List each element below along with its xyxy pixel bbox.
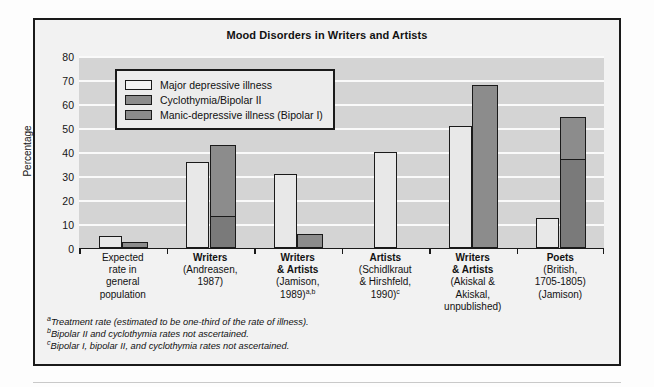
category-label-line: Expected [79,252,167,264]
category-label-line: general [79,276,167,288]
category-label-line: Akiskal, [429,289,517,301]
bar-segment-bipolar-i [560,160,586,248]
bar-stacked-bipolar [474,85,497,248]
y-axis-tick-label: 60 [62,99,74,111]
category-label-line: unpublished) [429,301,517,313]
category-label-line: 1989)a,b [254,289,342,301]
footnote-marker: c [396,287,400,294]
x-axis-category-label: Poets(British,1705-1805)(Jamison) [517,252,605,301]
bar-group [429,57,517,248]
y-axis-tick-label: 10 [62,219,74,231]
bar-major-depressive [374,152,397,248]
category-label-line: (Jamison, [254,276,342,288]
bar-segment-cyclothymia [560,117,586,160]
category-label-line: & Artists [429,264,517,276]
y-axis-tick-label: 30 [62,171,74,183]
category-label-line: Artists [342,252,430,264]
bar-group [342,57,430,248]
bar-stacked-bipolar [299,234,322,248]
legend-label: Cyclothymia/Bipolar II [160,94,262,106]
category-label-line: (Andreasen, [167,264,255,276]
category-label-line: (British, [517,264,605,276]
bar-segment-bipolar-i [122,242,148,248]
bar-major-depressive [274,174,297,248]
category-label-line: (Jamison) [517,289,605,301]
y-axis-tick-label: 20 [62,195,74,207]
bar-stacked-bipolar [124,242,147,248]
bar-major-depressive [99,236,122,248]
legend-item: Major depressive illness [125,77,323,92]
x-axis-category-label: Expectedrate ingeneralpopulation [79,252,167,301]
bar-group [517,57,605,248]
category-label-line: (Schidlkraut [342,264,430,276]
y-axis-tick-label: 40 [62,147,74,159]
category-label-line: Writers [429,252,517,264]
category-label-line: (Akiskal & [429,276,517,288]
footnote-marker: a [47,315,51,322]
x-axis-category-label: Writers(Andreasen,1987) [167,252,255,289]
bar-major-depressive [536,218,559,248]
legend-swatch-cyclothymia [125,95,152,105]
legend-label: Manic-depressive illness (Bipolar I) [160,109,323,121]
x-axis-category-label: Artists(Schidlkraut& Hirshfeld,1990)c [342,252,430,301]
legend-swatch-major-depressive [125,80,152,90]
legend-swatch-manic-depressive [125,110,152,120]
category-label-line: Poets [517,252,605,264]
legend-label: Major depressive illness [160,79,272,91]
category-label-line: 1705-1805) [517,276,605,288]
legend-item: Manic-depressive illness (Bipolar I) [125,107,323,122]
footnotes: aTreatment rate (estimated to be one-thi… [47,316,607,352]
category-label-line: 1987) [167,276,255,288]
legend-item: Cyclothymia/Bipolar II [125,92,323,107]
bar-segment-bipolar-i [472,85,498,248]
category-label-line: Writers [254,252,342,264]
bar-segment-bipolar-i [210,217,236,248]
chart-legend: Major depressive illness Cyclothymia/Bip… [115,69,335,130]
y-axis-tick-label: 80 [62,51,74,63]
category-label-line: Writers [167,252,255,264]
category-label-line: population [79,289,167,301]
x-axis-category-labels: Expectedrate ingeneralpopulationWriters(… [79,252,604,322]
x-axis-category-label: Writers& Artists(Jamison,1989)a,b [254,252,342,301]
footnote-marker: c [47,339,51,346]
footnote: cBipolar I, bipolar II, and cyclothymia … [47,340,607,352]
bar-segment-cyclothymia [210,145,236,217]
y-axis-title: Percentage [22,125,33,176]
chart-page: Mood Disorders in Writers and Artists Pe… [0,0,654,387]
bar-stacked-bipolar [211,145,234,248]
y-axis-tick-label: 50 [62,123,74,135]
category-label-line: & Hirshfeld, [342,276,430,288]
category-label-line: 1990)c [342,289,430,301]
bar-segment-bipolar-i [297,234,323,248]
footnote: bBipolar II and cyclothymia rates not as… [47,328,607,340]
x-axis-category-label: Writers& Artists(Akiskal &Akiskal,unpubl… [429,252,517,313]
y-axis-tick-label: 70 [62,75,74,87]
category-label-line: & Artists [254,264,342,276]
page-rule [33,382,621,383]
page-title: Mood Disorders in Writers and Artists [35,29,619,41]
y-axis-tick-label: 0 [68,243,74,255]
footnote: aTreatment rate (estimated to be one-thi… [47,316,607,328]
bar-stacked-bipolar [561,117,584,248]
figure-frame: Mood Disorders in Writers and Artists Pe… [33,18,621,366]
bar-major-depressive [449,126,472,248]
footnote-marker: a,b [306,287,316,294]
plot-wrapper: 01020304050607080 Major depressive illne… [79,57,604,249]
footnote-marker: b [47,327,51,334]
category-label-line: rate in [79,264,167,276]
bar-major-depressive [186,162,209,248]
